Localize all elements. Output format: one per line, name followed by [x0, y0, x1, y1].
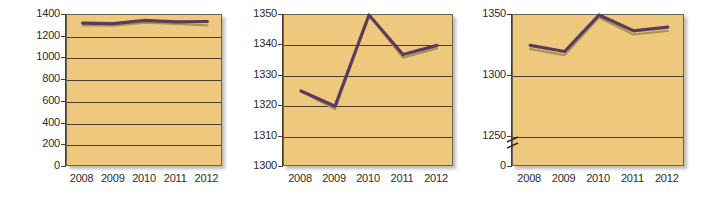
y-tick-mark — [278, 136, 283, 137]
y-tick-label: 0 — [18, 159, 60, 171]
y-tick-label: 200 — [18, 137, 60, 149]
y-tick-label: 400 — [18, 116, 60, 128]
plot-area-1 — [66, 14, 222, 166]
series-layer — [284, 15, 454, 167]
y-tick-label: 1400 — [18, 7, 60, 19]
y-tick-label: 1300 — [235, 159, 277, 171]
x-tick-label: 2012 — [416, 172, 456, 184]
plot-area-3 — [512, 14, 684, 166]
series-line-primary — [301, 15, 437, 106]
y-tick-label: 1340 — [235, 37, 277, 49]
plot-area-2 — [283, 14, 453, 166]
y-tick-mark — [61, 57, 66, 58]
y-tick-mark — [61, 101, 66, 102]
y-tick-mark — [61, 36, 66, 37]
y-tick-mark — [278, 166, 283, 167]
y-tick-mark — [507, 14, 512, 15]
y-tick-mark — [61, 144, 66, 145]
y-tick-label: 1310 — [235, 129, 277, 141]
y-tick-label: 1200 — [18, 29, 60, 41]
y-tick-mark — [278, 44, 283, 45]
chart-panel-2: 130013101320133013401350 200820092010201… — [236, 0, 468, 197]
axis-break-icon — [504, 128, 522, 158]
y-tick-label: 1300 — [464, 68, 506, 80]
y-tick-label: 0 — [464, 159, 506, 171]
y-axis-line — [282, 14, 283, 166]
y-tick-mark — [278, 14, 283, 15]
series-line-secondary — [301, 15, 437, 109]
y-tick-mark — [61, 166, 66, 167]
y-tick-label: 600 — [18, 94, 60, 106]
y-tick-label: 1250 — [464, 129, 506, 141]
series-layer — [513, 15, 685, 167]
y-tick-mark — [61, 79, 66, 80]
y-tick-mark — [61, 123, 66, 124]
y-tick-label: 1350 — [464, 7, 506, 19]
y-tick-mark — [278, 105, 283, 106]
series-layer — [67, 15, 223, 167]
y-tick-label: 1330 — [235, 68, 277, 80]
y-axis-line — [65, 14, 66, 166]
y-tick-mark — [507, 75, 512, 76]
y-tick-mark — [61, 14, 66, 15]
figure-canvas: 0200400600800100012001400 20082009201020… — [0, 0, 706, 197]
y-tick-label: 1000 — [18, 50, 60, 62]
y-tick-mark — [507, 166, 512, 167]
chart-panel-3: 0125013001350 20082009201020112012 — [468, 0, 706, 197]
y-tick-mark — [278, 75, 283, 76]
chart-panel-1: 0200400600800100012001400 20082009201020… — [0, 0, 236, 197]
x-tick-label: 2012 — [186, 172, 226, 184]
y-tick-label: 800 — [18, 72, 60, 84]
x-tick-label: 2012 — [647, 172, 687, 184]
y-tick-label: 1350 — [235, 7, 277, 19]
y-tick-label: 1320 — [235, 98, 277, 110]
